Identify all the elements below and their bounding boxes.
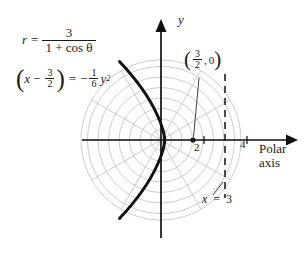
point-label-denominator: 2: [193, 59, 202, 70]
polar-axis-label-line1: Polar: [259, 142, 286, 156]
directrix-label: x = 3: [202, 192, 232, 207]
point-label-numerator: 3: [193, 49, 202, 59]
point-label-comma: ,: [204, 54, 207, 66]
rect-equation-minus: −: [33, 71, 40, 87]
vertex-point-label: ( 3 2 , 0 ): [184, 49, 221, 70]
rect-equation-x: x: [24, 71, 30, 87]
polar-equation-numerator: 3: [63, 26, 76, 40]
polar-equation-equals: =: [31, 32, 38, 48]
rect-equation-rhs-denominator: 6: [89, 78, 98, 89]
polar-equation-fraction: 3 1 + cos θ: [42, 26, 95, 54]
rect-equation-negative-sign: −: [80, 71, 87, 87]
rect-equation-exponent: 2: [106, 74, 110, 83]
rect-equation-equals: =: [69, 71, 76, 87]
rect-equation-rhs-fraction: 1 6: [89, 68, 98, 89]
directrix-label-value: 3: [226, 192, 232, 206]
polar-equation-lhs: r: [22, 32, 27, 48]
directrix-label-x: x: [202, 192, 207, 206]
rect-equation-rhs-numerator: 1: [89, 68, 98, 78]
point-label-open-paren: (: [184, 51, 191, 68]
y-axis-label: y: [178, 12, 184, 28]
polar-equation-denominator: 1 + cos θ: [42, 40, 95, 55]
point-label-close-paren: ): [214, 51, 221, 68]
rect-equation-close-paren: ): [56, 69, 64, 89]
rect-equation-lhs-denominator: 2: [45, 78, 54, 89]
rect-equation-lhs-numerator: 3: [45, 68, 54, 78]
rect-equation-lhs-fraction: 3 2: [45, 68, 54, 89]
polar-equation: r = 3 1 + cos θ: [22, 26, 96, 54]
directrix-label-equals: =: [213, 192, 220, 206]
point-label-fraction: 3 2: [193, 49, 202, 70]
rectangular-equation: ( x − 3 2 ) = − 1 6 y 2: [16, 68, 110, 89]
polar-axis-label: Polar axis: [259, 142, 286, 170]
x-axis-tick-label-2: 2: [194, 141, 200, 153]
x-axis-tick-label-4: 4: [240, 138, 246, 150]
polar-axis-label-line2: axis: [259, 156, 286, 170]
